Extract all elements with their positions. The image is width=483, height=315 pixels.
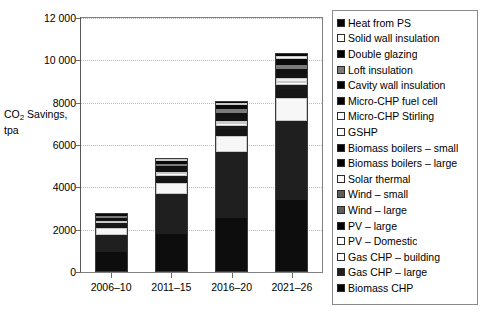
y-tick-label: 6000 xyxy=(20,140,76,150)
legend-swatch-icon xyxy=(337,222,345,230)
legend-item[interactable]: Cavity wall insulation xyxy=(337,77,474,93)
bar-segment xyxy=(156,194,187,234)
bar-segment xyxy=(156,234,187,271)
legend-item[interactable]: Gas CHP – building xyxy=(337,249,474,265)
y-tick-label: 4000 xyxy=(20,182,76,192)
x-tick-mark xyxy=(111,273,112,278)
legend-label: PV – large xyxy=(348,220,397,232)
legend-swatch-icon xyxy=(337,66,345,74)
legend-swatch-icon xyxy=(337,128,345,136)
chart-legend: Heat from PSSolid wall insulationDouble … xyxy=(332,10,478,305)
legend-swatch-icon xyxy=(337,159,345,167)
bar-segment xyxy=(276,98,307,121)
legend-item[interactable]: Biomass CHP xyxy=(337,280,474,296)
bar-segment xyxy=(216,152,247,218)
legend-swatch-icon xyxy=(337,50,345,58)
bar-segment xyxy=(96,228,127,235)
legend-label: Biomass boilers – small xyxy=(348,142,458,154)
legend-item[interactable]: Solar thermal xyxy=(337,171,474,187)
legend-label: Wind – small xyxy=(348,188,408,200)
x-tick-mark xyxy=(232,273,233,278)
bar-segment xyxy=(216,218,247,271)
legend-swatch-icon xyxy=(337,284,345,292)
legend-label: Micro-CHP Stirling xyxy=(348,110,434,122)
bar-segment xyxy=(216,136,247,152)
legend-item[interactable]: Micro-CHP Stirling xyxy=(337,109,474,125)
legend-label: GSHP xyxy=(348,126,378,138)
legend-item[interactable]: Wind – large xyxy=(337,202,474,218)
legend-swatch-icon xyxy=(337,81,345,89)
legend-swatch-icon xyxy=(337,112,345,120)
bar-2011-15[interactable] xyxy=(155,158,188,272)
legend-item[interactable]: Wind – small xyxy=(337,187,474,203)
legend-item[interactable]: PV – Domestic xyxy=(337,233,474,249)
legend-swatch-icon xyxy=(337,19,345,27)
y-tick-label: 10 000 xyxy=(20,55,76,65)
legend-item[interactable]: GSHP xyxy=(337,124,474,140)
legend-item[interactable]: Loft insulation xyxy=(337,62,474,78)
legend-swatch-icon xyxy=(337,237,345,245)
x-tick-label: 2021–26 xyxy=(257,281,327,294)
legend-swatch-icon xyxy=(337,175,345,183)
legend-label: Biomass boilers – large xyxy=(348,157,457,169)
bar-segment xyxy=(96,235,127,253)
legend-item[interactable]: Biomass boilers – large xyxy=(337,155,474,171)
bar-2021-26[interactable] xyxy=(275,53,308,272)
legend-item[interactable]: Heat from PS xyxy=(337,15,474,31)
legend-swatch-icon xyxy=(337,97,345,105)
bar-2006-10[interactable] xyxy=(95,213,128,272)
x-axis-ticks xyxy=(80,273,323,279)
legend-swatch-icon xyxy=(337,34,345,42)
y-tick-label: 2000 xyxy=(20,225,76,235)
bars-layer xyxy=(81,18,322,272)
bar-segment xyxy=(276,121,307,201)
legend-swatch-icon xyxy=(337,206,345,214)
legend-label: Heat from PS xyxy=(348,17,411,29)
legend-swatch-icon xyxy=(337,190,345,198)
legend-swatch-icon xyxy=(337,144,345,152)
legend-item[interactable]: Biomass boilers – small xyxy=(337,140,474,156)
bar-2016-20[interactable] xyxy=(215,101,248,272)
legend-label: Loft insulation xyxy=(348,64,413,76)
legend-label: Micro-CHP fuel cell xyxy=(348,95,438,107)
x-axis-labels: 2006–102011–152016–202021–26 xyxy=(80,281,323,297)
legend-label: Cavity wall insulation xyxy=(348,79,445,91)
bar-segment xyxy=(156,183,187,194)
legend-item[interactable]: Solid wall insulation xyxy=(337,31,474,47)
y-tick-label: 8000 xyxy=(20,98,76,108)
legend-item[interactable]: Gas CHP – large xyxy=(337,265,474,281)
x-tick-mark xyxy=(171,273,172,278)
legend-swatch-icon xyxy=(337,253,345,261)
chart-page: CO2 Savings,tpa 0200040006000800010 0001… xyxy=(0,0,483,315)
legend-label: Solid wall insulation xyxy=(348,32,440,44)
legend-label: Solar thermal xyxy=(348,173,410,185)
legend-swatch-icon xyxy=(337,268,345,276)
legend-label: Gas CHP – large xyxy=(348,266,427,278)
legend-item[interactable]: PV – large xyxy=(337,218,474,234)
y-tick-label: 0 xyxy=(20,267,76,277)
legend-label: PV – Domestic xyxy=(348,235,417,247)
bar-segment xyxy=(216,129,247,136)
bar-segment xyxy=(276,200,307,271)
legend-item[interactable]: Double glazing xyxy=(337,46,474,62)
y-tick-label: 12 000 xyxy=(20,13,76,23)
legend-item[interactable]: Micro-CHP fuel cell xyxy=(337,93,474,109)
y-axis-ticks: 0200040006000800010 00012 000 xyxy=(16,17,76,273)
bar-segment xyxy=(276,89,307,98)
bar-segment xyxy=(96,252,127,271)
legend-label: Wind – large xyxy=(348,204,407,216)
legend-label: Gas CHP – building xyxy=(348,251,440,263)
x-tick-mark xyxy=(292,273,293,278)
legend-label: Biomass CHP xyxy=(348,282,413,294)
legend-label: Double glazing xyxy=(348,48,417,60)
